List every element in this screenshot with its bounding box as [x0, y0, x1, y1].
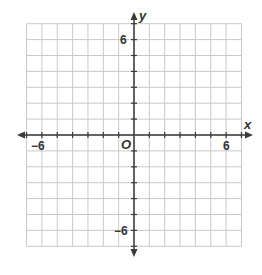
y-tick-label-neg6: −6	[114, 224, 128, 238]
y-tick-label-pos6: 6	[120, 33, 127, 47]
origin-label: O	[121, 137, 131, 152]
y-axis-bottom-arrow-icon	[131, 249, 138, 257]
coordinate-plane: y x O −6 6 6 −6	[0, 0, 262, 275]
x-axis-left-arrow-icon	[17, 132, 25, 139]
x-axis-label: x	[243, 117, 252, 132]
y-axis-label: y	[138, 8, 147, 23]
x-axis-right-arrow-icon	[245, 132, 253, 139]
axes	[17, 12, 253, 257]
y-axis-top-arrow-icon	[131, 12, 138, 20]
x-tick-label-neg6: −6	[31, 139, 45, 153]
x-tick-label-pos6: 6	[223, 139, 230, 153]
